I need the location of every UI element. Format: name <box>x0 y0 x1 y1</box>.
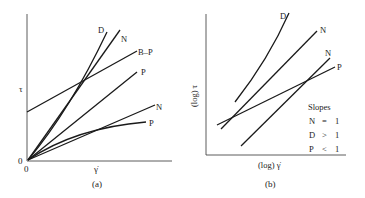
curve-a-pseudoplastic-upper <box>28 72 137 160</box>
panel-b: (log) τ (log) γ̇ (b) D N N P Slopes N = … <box>189 11 346 189</box>
panel-a-origin-x: 0 <box>24 164 29 174</box>
panel-b-caption: (b) <box>265 179 276 189</box>
legend-val-d: 1 <box>335 130 339 140</box>
panel-b-y-label: (log) τ <box>189 84 199 107</box>
label-a-p-lower: P <box>149 118 154 128</box>
label-b-n-lower: N <box>325 48 331 58</box>
legend-rel-n: = <box>322 116 327 126</box>
legend-rel-p: < <box>322 144 327 154</box>
label-b-d: D <box>280 11 286 21</box>
legend-val-n: 1 <box>335 116 339 126</box>
label-b-n-upper: N <box>320 25 326 35</box>
label-b-p: P <box>337 62 342 72</box>
curve-b-pseudoplastic <box>217 67 335 125</box>
curve-b-dilatant <box>235 13 289 102</box>
panel-b-x-label: (log) γ̇ <box>258 160 281 170</box>
legend-rel-d: > <box>322 130 327 140</box>
legend-title: Slopes <box>308 102 331 112</box>
curve-a-pseudoplastic-lower <box>28 122 146 160</box>
curve-a-dilatant <box>28 32 107 160</box>
legend-sym-d: D <box>309 130 315 140</box>
curve-a-bingham-plastic <box>27 51 137 112</box>
panel-a: τ 0 0 γ̇ (a) D N B–P P N P <box>18 14 172 189</box>
legend-sym-n: N <box>309 116 315 126</box>
rheology-diagram: τ 0 0 γ̇ (a) D N B–P P N P (log) τ (log)… <box>0 0 365 198</box>
legend-val-p: 1 <box>335 144 339 154</box>
label-a-n-lower: N <box>156 102 162 112</box>
panel-a-x-label: γ̇ <box>93 164 99 174</box>
legend-sym-p: P <box>309 144 314 154</box>
label-a-p-upper: P <box>141 67 146 77</box>
curve-b-newtonian-upper <box>221 31 317 129</box>
panel-a-origin-y: 0 <box>18 156 23 166</box>
panel-a-y-label: τ <box>19 84 23 94</box>
label-a-bp: B–P <box>138 47 153 57</box>
label-a-n-upper: N <box>121 34 127 44</box>
slopes-legend: Slopes N = 1 D > 1 P < 1 <box>308 102 339 154</box>
panel-a-caption: (a) <box>92 179 102 189</box>
label-a-d: D <box>98 25 104 35</box>
